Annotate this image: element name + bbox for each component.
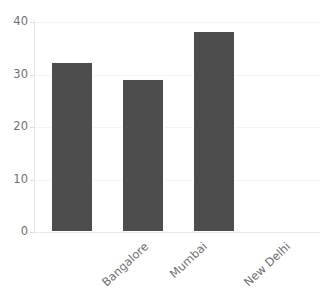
y-tick-label-20: 20 xyxy=(0,121,28,133)
y-tick-label-0: 0 xyxy=(0,226,28,238)
y-tick-label-10: 10 xyxy=(0,174,28,186)
plot-area: 010203040BangaloreMumbaiNew Delhi xyxy=(0,0,334,293)
x-tick-label-mumbai: Mumbai xyxy=(167,240,209,280)
y-tick-label-40: 40 xyxy=(0,16,28,28)
bar-chart: 010203040BangaloreMumbaiNew Delhi xyxy=(0,0,334,293)
x-tick-label-bangalore: Bangalore xyxy=(100,240,151,289)
y-tick-label-30: 30 xyxy=(0,69,28,81)
gridline-y-40 xyxy=(34,22,320,23)
gridline-y-0 xyxy=(34,232,320,233)
y-axis-line xyxy=(34,20,35,233)
bar-mumbai[interactable] xyxy=(122,79,164,232)
x-tick-label-new-delhi: New Delhi xyxy=(242,240,293,289)
bar-new-delhi[interactable] xyxy=(193,31,235,232)
bar-bangalore[interactable] xyxy=(51,62,93,232)
